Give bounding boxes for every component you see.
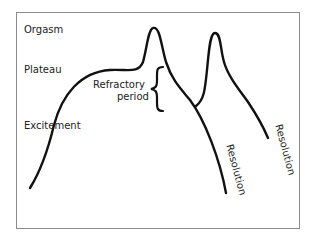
refractory-brace-icon bbox=[151, 67, 163, 111]
label-plateau: Plateau bbox=[24, 64, 61, 76]
label-refractory: Refractory bbox=[93, 79, 145, 91]
second-response-curve bbox=[196, 33, 268, 138]
label-period: period bbox=[117, 91, 149, 103]
label-excitement: Excitement bbox=[24, 120, 81, 132]
label-orgasm: Orgasm bbox=[24, 24, 63, 36]
main-response-curve bbox=[30, 28, 226, 193]
